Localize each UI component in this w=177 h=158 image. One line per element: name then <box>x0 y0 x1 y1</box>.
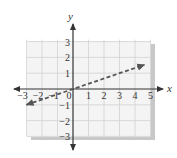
x-tick-label: 2 <box>102 90 107 101</box>
y-tick-label: 1 <box>65 68 70 79</box>
x-tick-label: 5 <box>148 90 153 101</box>
x-tick-label: 1 <box>86 90 91 101</box>
coordinate-graph: x y −3−2−1012345−3−2−1123 <box>0 0 177 158</box>
y-tick-label: 3 <box>65 37 70 48</box>
x-tick-label: −3 <box>17 90 28 101</box>
y-tick-label: −2 <box>59 116 70 127</box>
x-tick-label: 4 <box>133 90 138 101</box>
y-tick-label: −1 <box>59 100 70 111</box>
y-tick-label: 2 <box>65 52 70 63</box>
y-axis-label: y <box>67 10 73 22</box>
x-axis-label: x <box>166 82 172 94</box>
x-tick-label: 3 <box>117 90 122 101</box>
y-tick-label: −3 <box>59 131 70 142</box>
